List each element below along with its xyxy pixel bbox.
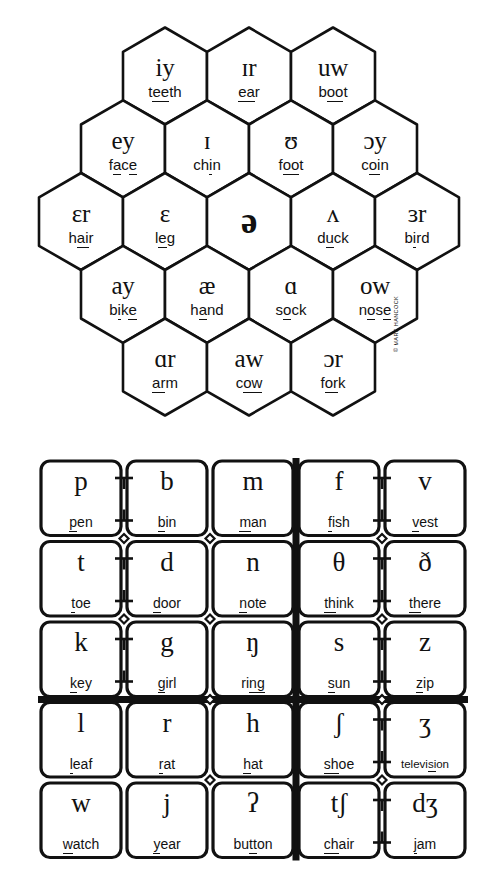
consonant-cell-watch[interactable] — [41, 783, 121, 858]
consonant-cell-ring[interactable] — [213, 622, 293, 697]
vowel-hexagon-outlines — [0, 0, 498, 430]
consonant-cell-girl[interactable] — [127, 622, 207, 697]
consonant-cell-bin[interactable] — [127, 461, 207, 536]
consonant-cell-sun[interactable] — [299, 622, 379, 697]
copyright-notice: © MARK HANCOCK — [393, 296, 399, 352]
consonant-cell-fish[interactable] — [299, 461, 379, 536]
consonant-grid-outlines — [38, 458, 468, 862]
consonant-cell-year[interactable] — [127, 783, 207, 858]
consonant-cell-door[interactable] — [127, 542, 207, 617]
consonant-cell-jam[interactable] — [385, 783, 465, 858]
consonant-cell-pen[interactable] — [41, 461, 121, 536]
consonant-cell-chair[interactable] — [299, 783, 379, 858]
consonant-cell-there[interactable] — [385, 542, 465, 617]
consonant-cell-leaf[interactable] — [41, 703, 121, 778]
consonant-cell-shoe[interactable] — [299, 703, 379, 778]
consonant-cell-rat[interactable] — [127, 703, 207, 778]
consonant-cell-note[interactable] — [213, 542, 293, 617]
consonant-cell-button[interactable] — [213, 783, 293, 858]
consonant-cell-toe[interactable] — [41, 542, 121, 617]
vowel-hexagon-chart: iyteethɪrearuwbooteyfaceɪchinʊfootɔycoin… — [0, 0, 498, 430]
consonant-cell-think[interactable] — [299, 542, 379, 617]
consonant-cell-vest[interactable] — [385, 461, 465, 536]
consonant-cell-man[interactable] — [213, 461, 293, 536]
consonant-cell-key[interactable] — [41, 622, 121, 697]
consonant-cell-zip[interactable] — [385, 622, 465, 697]
consonant-cell-television[interactable] — [385, 703, 465, 778]
consonant-cell-hat[interactable] — [213, 703, 293, 778]
consonant-grid-chart: ppenbbinmmanffishvvestttoeddoornnoteθthi… — [38, 458, 468, 862]
